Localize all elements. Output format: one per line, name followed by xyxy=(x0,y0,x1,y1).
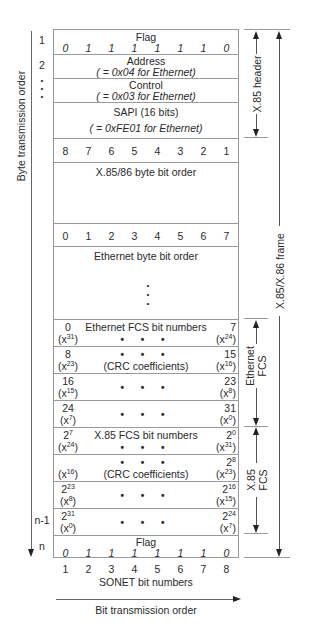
sonet-bit-numbers: 1 2 3 4 5 6 7 8 xyxy=(54,563,238,575)
flag-bit: 0 xyxy=(215,42,238,54)
power: 23 xyxy=(67,483,75,490)
flag-bit: 1 xyxy=(169,42,192,54)
flag-bit: 1 xyxy=(146,42,169,54)
fcs-right-exp: (x8) xyxy=(206,387,236,399)
bit-number: 5 xyxy=(169,230,192,242)
x85-fcs-label-line1: X.85 xyxy=(245,463,257,497)
header-bracket-bottom xyxy=(244,137,268,138)
fcs-right-exp: (x0) xyxy=(206,414,236,426)
control-row: Control ( = 0x03 for Ethernet) xyxy=(54,78,238,102)
bit-number: 8 xyxy=(54,145,77,157)
flag-bit: 1 xyxy=(123,547,146,559)
x85-fcs-row: 27 (x24) X.85 FCS bit numbers • • • 20 (… xyxy=(54,427,238,454)
ethernet-bit-order-row: Ethernet byte bit order • • • xyxy=(54,246,238,319)
power: 8 xyxy=(232,456,236,463)
bit-number: 2 xyxy=(192,145,215,157)
x85-bit-order-row: X.85/86 byte bit order xyxy=(54,162,238,223)
flag-bit: 0 xyxy=(54,547,77,559)
ethernet-fcs-label-line1: Ethernet xyxy=(244,344,256,388)
bit-number: 3 xyxy=(169,145,192,157)
power: 24 xyxy=(228,510,236,517)
fcs-right-num: 224 xyxy=(206,510,236,522)
fcs-right-num: 20 xyxy=(206,429,236,441)
bit-number: 0 xyxy=(54,230,77,242)
header-arrow-down-icon xyxy=(253,129,259,137)
header-arrow-up-icon xyxy=(253,31,259,39)
closing-flag-row: Flag 0 1 1 1 1 1 1 0 xyxy=(54,535,238,558)
closing-flag-bits: 0 1 1 1 1 1 1 0 xyxy=(54,547,238,559)
row-number-1: 1 xyxy=(34,34,50,46)
flag-bit: 0 xyxy=(215,547,238,559)
x85-header-label: X.85 header xyxy=(251,54,263,114)
flag-bit: 1 xyxy=(123,42,146,54)
sonet-bit: 5 xyxy=(146,563,169,575)
power: 16 xyxy=(228,483,236,490)
flag-bit: 1 xyxy=(100,547,123,559)
ethernet-fcs-row: 24 (x7) • • • 31 (x0) xyxy=(54,400,238,427)
bit-number: 4 xyxy=(146,230,169,242)
exponent: 16 xyxy=(225,360,233,367)
bit-number: 1 xyxy=(77,230,100,242)
x85-fcs-arrow-up-icon xyxy=(253,427,259,435)
continuation-dot: • xyxy=(56,298,240,310)
row-number-n-1: n-1 xyxy=(34,514,50,526)
x85-fcs-row: 231 (x0) • • • 224 (x7) xyxy=(54,508,238,535)
header-bracket-top xyxy=(244,29,290,30)
fcs-right-num: 23 xyxy=(206,375,236,387)
frame-table: Flag 0 1 1 1 1 1 1 0 Address ( = 0x04 fo… xyxy=(53,29,239,558)
bit-number: 6 xyxy=(192,230,215,242)
x85-fcs-row: 223 (x8) • • • 216 (x15) xyxy=(54,481,238,508)
flag-bit: 1 xyxy=(100,42,123,54)
fcs-right-exp: (x31) xyxy=(206,441,236,453)
eth-fcs-arrow-up-icon xyxy=(253,320,259,328)
frame-bracket-bottom xyxy=(244,557,290,558)
bit-number: 7 xyxy=(215,230,238,242)
row-number-dot: • xyxy=(34,92,50,101)
frame-arrow-down-icon xyxy=(276,549,282,557)
ethernet-fcs-label-line2: FCS xyxy=(256,344,268,388)
power: 31 xyxy=(67,510,75,517)
bit-number: 2 xyxy=(100,230,123,242)
fcs-right-num: 15 xyxy=(206,348,236,360)
ethernet-bit-order-label: Ethernet byte bit order xyxy=(54,250,238,262)
flag-bit: 1 xyxy=(192,42,215,54)
sonet-bit: 7 xyxy=(192,563,215,575)
flag-bit: 1 xyxy=(169,547,192,559)
exponent: 0 xyxy=(229,414,233,421)
exponent: 8 xyxy=(229,387,233,394)
bit-number: 3 xyxy=(123,230,146,242)
bit-order-arrow-icon xyxy=(233,596,241,602)
x85-bit-numbers: 8 7 6 5 4 3 2 1 xyxy=(54,145,238,157)
flag-bit: 0 xyxy=(54,42,77,54)
fcs-right-num: 28 xyxy=(206,456,236,468)
eth-fcs-bracket-top xyxy=(244,318,268,319)
fcs-right-exp: (x15) xyxy=(206,495,236,507)
exponent: 31 xyxy=(225,441,233,448)
x85-frame-label: X.85/X.86 frame xyxy=(274,226,286,316)
fcs-right-exp: (x16) xyxy=(206,360,236,372)
bit-order-axis-label: Bit transmission order xyxy=(54,604,238,616)
sonet-bit-numbers-label: SONET bit numbers xyxy=(54,576,238,588)
exponent: 24 xyxy=(225,333,233,340)
exponent: 15 xyxy=(225,495,233,502)
sonet-bit: 8 xyxy=(215,563,238,575)
fcs-right-num: 31 xyxy=(206,402,236,414)
flag-bit: 1 xyxy=(192,547,215,559)
fcs-right-exp: (x23) xyxy=(206,468,236,480)
fcs-right-exp: (x24) xyxy=(206,333,236,345)
bit-number: 6 xyxy=(100,145,123,157)
bit-order-axis-line xyxy=(56,599,234,600)
byte-order-axis-line xyxy=(31,31,32,553)
ethernet-fcs-label: Ethernet FCS xyxy=(244,344,268,388)
ethernet-bit-numbers-row: 0 1 2 3 4 5 6 7 xyxy=(54,223,238,246)
fcs-right-num: 216 xyxy=(206,483,236,495)
flag-bit: 1 xyxy=(77,42,100,54)
address-row: Address ( = 0x04 for Ethernet) xyxy=(54,54,238,78)
row-number-2: 2 xyxy=(34,59,50,71)
bit-number: 5 xyxy=(123,145,146,157)
x85-fcs-label-line2: FCS xyxy=(257,463,269,497)
sapi-row: SAPI (16 bits) ( = 0xFE01 for Ethernet) xyxy=(54,102,238,138)
ethernet-fcs-row: 8 (x23) • • • (CRC coefficients) 15 (x16… xyxy=(54,346,238,373)
address-note: ( = 0x04 for Ethernet) xyxy=(54,66,238,78)
flag-bits: 0 1 1 1 1 1 1 0 xyxy=(54,42,238,54)
